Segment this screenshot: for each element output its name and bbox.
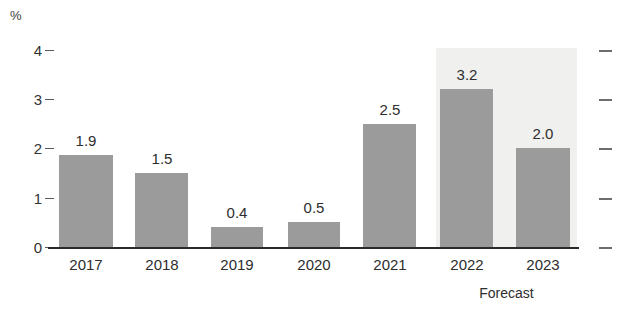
bar-value-2017: 1.9 [56, 133, 116, 148]
x-axis-label-2022: 2022 [437, 257, 497, 272]
right-axis-tick-mark-3 [599, 99, 612, 101]
y-axis-tick-mark-2 [45, 148, 54, 149]
right-axis-tick-mark-0 [599, 247, 612, 249]
y-axis-tick-label-2: 2 [20, 141, 42, 156]
x-axis-label-2023: 2023 [513, 257, 573, 272]
x-axis-label-2017: 2017 [56, 257, 116, 272]
bar-value-2019: 0.4 [207, 205, 267, 220]
bar-2022[interactable] [440, 89, 493, 247]
bar-value-2021: 2.5 [360, 102, 420, 117]
x-axis-label-2021: 2021 [360, 257, 420, 272]
bar-value-2018: 1.5 [132, 151, 192, 166]
bar-2018[interactable] [135, 173, 188, 247]
bar-2019[interactable] [211, 227, 263, 247]
bar-value-2020: 0.5 [284, 200, 344, 215]
bar-2021[interactable] [363, 124, 416, 247]
right-axis-tick-mark-2 [599, 148, 612, 150]
source-note [12, 318, 612, 325]
y-axis-unit-label: % [10, 8, 22, 23]
bar-2017[interactable] [59, 155, 113, 247]
bar-2020[interactable] [288, 222, 340, 247]
y-axis-tick-label-0: 0 [20, 240, 42, 255]
y-axis-tick-mark-3 [45, 99, 54, 100]
bar-chart: % 4 3 2 1 0 1.9 1.5 0.4 0.5 2.5 3.2 2.0 [0, 0, 624, 325]
forecast-caption: Forecast [436, 285, 577, 301]
x-axis-baseline [48, 247, 579, 249]
right-axis-tick-mark-4 [599, 50, 612, 52]
plot-area: % 4 3 2 1 0 1.9 1.5 0.4 0.5 2.5 3.2 2.0 [0, 0, 624, 325]
y-axis-tick-mark-1 [45, 198, 54, 199]
bar-2023[interactable] [516, 148, 570, 247]
y-axis-tick-mark-4 [45, 50, 54, 51]
y-axis-tick-label-4: 4 [20, 43, 42, 58]
x-axis-label-2019: 2019 [207, 257, 267, 272]
right-axis-tick-mark-1 [599, 198, 612, 200]
y-axis-tick-label-1: 1 [20, 191, 42, 206]
x-axis-label-2018: 2018 [132, 257, 192, 272]
y-axis-tick-label-3: 3 [20, 92, 42, 107]
bar-value-2022: 3.2 [437, 67, 497, 82]
x-axis-label-2020: 2020 [284, 257, 344, 272]
bar-value-2023: 2.0 [513, 126, 573, 141]
